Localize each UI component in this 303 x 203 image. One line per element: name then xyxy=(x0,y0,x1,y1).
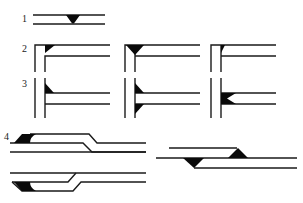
fillet-triangle xyxy=(66,15,80,24)
fillet-triangle xyxy=(45,45,55,53)
row-1: 1 xyxy=(22,13,105,24)
fillet-triangle xyxy=(183,158,204,168)
diagram-svg: 1 2 3 xyxy=(0,0,303,203)
fillet-wedge xyxy=(14,134,36,143)
row-1-label: 1 xyxy=(22,13,27,24)
row-3-label: 3 xyxy=(22,78,27,89)
row-2-label: 2 xyxy=(22,43,27,54)
fillet-triangle xyxy=(45,83,54,93)
diagram-canvas: 1 2 3 xyxy=(0,0,303,203)
fillet-wedge xyxy=(221,93,236,104)
fillet-triangle xyxy=(126,45,144,55)
row-4: 4 xyxy=(4,131,297,191)
row-3: 3 xyxy=(22,78,276,118)
fillet-triangle xyxy=(135,104,144,114)
row-2: 2 xyxy=(22,43,276,72)
fillet-triangle xyxy=(228,148,248,158)
fillet-triangle xyxy=(135,83,144,93)
row-4-label: 4 xyxy=(4,131,9,142)
